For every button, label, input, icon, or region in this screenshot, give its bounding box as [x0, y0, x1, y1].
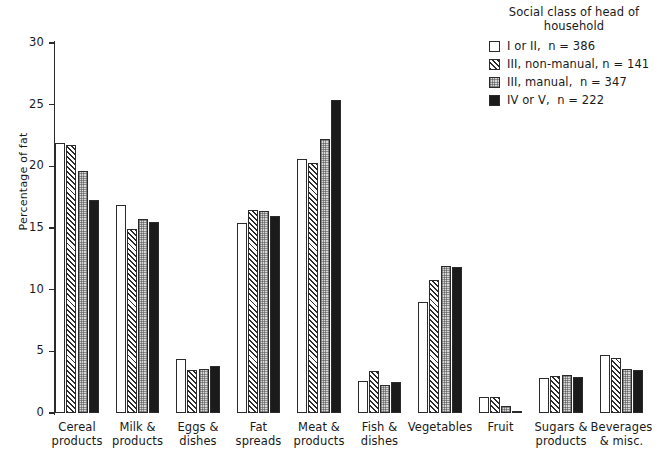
legend-items: I or II, n = 386III, non-manual, n = 141…	[486, 40, 662, 106]
bar	[127, 229, 137, 413]
bar	[270, 216, 280, 413]
y-tick-label: 0	[0, 407, 44, 419]
legend-item: III, manual, n = 347	[489, 76, 662, 88]
y-tick-label: 10	[0, 284, 44, 296]
bar	[297, 159, 307, 413]
bar-group	[237, 210, 281, 414]
bar	[237, 223, 247, 413]
bar	[611, 358, 621, 414]
bar	[501, 406, 511, 413]
legend-item: III, non-manual, n = 141	[489, 58, 662, 70]
bar	[391, 382, 401, 413]
bar	[441, 266, 451, 413]
y-tick	[49, 42, 54, 43]
legend-swatch-diagonal-hatch	[489, 59, 500, 70]
bar-group	[116, 205, 160, 413]
bar	[600, 355, 610, 413]
bar-group	[600, 355, 644, 413]
x-axis-label: Beverages & misc.	[577, 421, 664, 448]
bar-group	[358, 371, 402, 413]
bar	[562, 375, 572, 413]
y-tick-label: 30	[0, 37, 44, 49]
bar	[138, 219, 148, 413]
bar	[633, 370, 643, 413]
bar	[176, 359, 186, 413]
bar	[429, 280, 439, 413]
bar	[539, 378, 549, 413]
y-tick-label: 5	[0, 345, 44, 357]
legend: Social class of head of household I or I…	[486, 6, 662, 112]
bar	[187, 370, 197, 413]
legend-title: Social class of head of household	[486, 6, 662, 33]
legend-swatch-cross-hatch-gray	[489, 77, 500, 88]
bar	[116, 205, 126, 413]
bar	[308, 163, 318, 413]
legend-item: I or II, n = 386	[489, 40, 662, 52]
y-tick	[49, 289, 54, 290]
y-tick	[49, 166, 54, 167]
bar-chart: 051015202530 Percentage of fat Cereal pr…	[0, 0, 664, 463]
bar-group	[176, 359, 220, 413]
bar	[573, 377, 583, 413]
bar	[210, 366, 220, 413]
bar-group	[297, 100, 341, 413]
bar	[55, 143, 65, 413]
bar	[479, 397, 489, 413]
legend-swatch-solid-black	[489, 95, 500, 106]
bar	[380, 385, 390, 413]
bar-group	[418, 266, 462, 413]
bar	[78, 171, 88, 413]
bar	[622, 369, 632, 413]
legend-swatch-white	[489, 41, 500, 52]
bar	[149, 222, 159, 413]
bar	[550, 376, 560, 413]
legend-item: IV or V, n = 222	[489, 94, 662, 106]
bar-group	[55, 143, 99, 413]
bar	[89, 200, 99, 413]
y-tick	[49, 412, 54, 413]
bar	[418, 302, 428, 413]
bar	[248, 210, 258, 414]
bar	[320, 139, 330, 413]
bar	[66, 145, 76, 413]
bar-group	[539, 375, 583, 413]
bar	[369, 371, 379, 413]
y-tick	[49, 227, 54, 228]
y-tick	[49, 351, 54, 352]
bar-group	[479, 397, 523, 413]
y-axis-title: Percentage of fat	[17, 102, 30, 262]
bar	[512, 411, 522, 413]
bar	[331, 100, 341, 413]
bar	[358, 381, 368, 413]
legend-item-label: III, manual, n = 347	[507, 76, 627, 88]
y-tick	[49, 104, 54, 105]
bar	[259, 211, 269, 413]
bar	[199, 369, 209, 413]
legend-item-label: IV or V, n = 222	[507, 94, 604, 106]
bar	[452, 267, 462, 413]
legend-item-label: I or II, n = 386	[507, 40, 595, 52]
bar	[490, 397, 500, 413]
legend-item-label: III, non-manual, n = 141	[507, 58, 649, 70]
